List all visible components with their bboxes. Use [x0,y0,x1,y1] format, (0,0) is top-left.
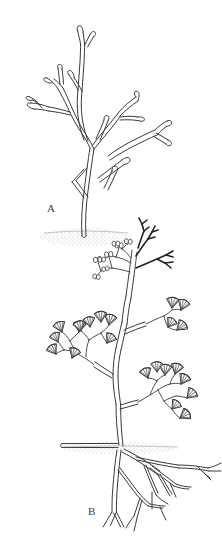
leaf-cluster-left-leaves [45,311,117,360]
leaf-cluster-lower-right [138,374,187,418]
panel-b-plant [45,218,221,531]
root-system [103,449,221,531]
leaf-cluster-left [56,325,109,365]
panel-b-axes [61,274,147,448]
panel-label-a: A [47,203,55,214]
leaf-cluster-lower-right-leaves [139,362,199,424]
panel-a-plant [26,26,172,250]
plant-reconstruction-diagram [0,0,222,548]
sporangiophore-group [136,218,173,268]
leaf-cluster-upper-right [146,309,181,330]
leaf-cluster-upper-right-leaves [163,297,190,335]
panel-label-b: B [88,506,96,517]
figure-container: A B [0,0,222,548]
